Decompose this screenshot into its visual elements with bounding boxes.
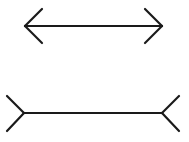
end-arm-line <box>145 26 162 43</box>
top-line-with-arrowheads <box>25 9 162 43</box>
end-arm-line <box>145 9 162 26</box>
end-arm-line <box>25 9 42 26</box>
end-arm-line <box>162 96 179 113</box>
end-arm-line <box>7 96 24 113</box>
muller-lyer-diagram <box>0 0 189 142</box>
end-arm-line <box>7 113 24 131</box>
bottom-line-with-fins <box>7 96 179 131</box>
end-arm-line <box>162 113 179 131</box>
end-arm-line <box>25 26 42 43</box>
